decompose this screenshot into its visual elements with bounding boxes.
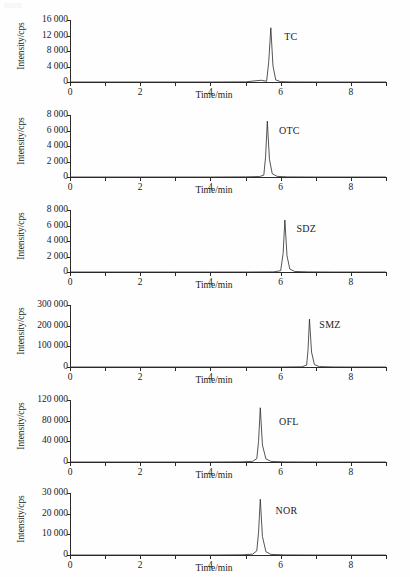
x-tick-mark <box>316 177 317 181</box>
peak-label-nor: NOR <box>275 505 297 516</box>
scan-artifact <box>4 3 22 8</box>
y-tick-label: 6 000 <box>47 126 68 136</box>
x-tick-mark <box>351 367 352 371</box>
x-tick-mark <box>210 82 211 86</box>
x-tick-mark <box>281 367 282 371</box>
y-axis-title-text: Intensity/cps <box>16 212 26 259</box>
peak-label-sdz: SDZ <box>296 223 316 234</box>
y-tick-label: 200 000 <box>37 321 68 331</box>
x-tick-mark <box>105 82 106 86</box>
x-tick-mark <box>175 367 176 371</box>
y-tick-labels: 04 0008 00012 00016 000 <box>26 10 68 82</box>
y-tick-label: 2 000 <box>47 252 68 262</box>
x-tick-mark <box>105 555 106 559</box>
x-axis-title: Time/min <box>0 563 410 573</box>
chromatogram-panel-ofl: Intensity/cps040 00080 000120 00002468OF… <box>0 390 410 485</box>
x-tick-mark <box>386 462 387 466</box>
x-tick-mark <box>246 272 247 276</box>
y-tick-label: 10 000 <box>42 530 68 540</box>
x-tick-mark <box>210 272 211 276</box>
x-tick-mark <box>140 555 141 559</box>
plot-area: 02468TC <box>70 20 386 82</box>
x-tick-mark <box>246 177 247 181</box>
x-tick-mark <box>246 367 247 371</box>
y-tick-labels: 02 0004 0006 0008 000 <box>26 200 68 272</box>
chromatogram-trace <box>70 400 386 462</box>
x-tick-mark <box>210 177 211 181</box>
trace-line <box>70 499 386 555</box>
y-tick-label: 40 000 <box>42 437 68 447</box>
x-axis-title: Time/min <box>0 185 410 195</box>
chromatogram-trace <box>70 305 386 367</box>
x-tick-mark <box>70 367 71 371</box>
x-tick-mark <box>70 272 71 276</box>
x-tick-mark <box>105 462 106 466</box>
y-axis-title-text: Intensity/cps <box>16 117 26 164</box>
trace-line <box>70 28 386 82</box>
peak-label-otc: OTC <box>279 125 300 136</box>
x-tick-mark <box>281 82 282 86</box>
x-tick-mark <box>70 462 71 466</box>
x-tick-mark <box>105 367 106 371</box>
chromatogram-trace <box>70 210 386 272</box>
plot-area: 02468SDZ <box>70 210 386 272</box>
x-tick-mark <box>281 272 282 276</box>
x-tick-mark <box>246 555 247 559</box>
x-tick-mark <box>105 272 106 276</box>
y-tick-label: 12 000 <box>42 31 68 41</box>
plot-area: 02468OFL <box>70 400 386 462</box>
trace-line <box>70 121 386 177</box>
y-tick-labels: 0100 000200 000300 000 <box>26 295 68 367</box>
x-tick-mark <box>246 462 247 466</box>
chromatogram-panel-tc: Intensity/cps04 0008 00012 00016 0000246… <box>0 10 410 105</box>
y-tick-labels: 02 0004 0006 0008 000 <box>26 105 68 177</box>
x-tick-mark <box>316 367 317 371</box>
chromatogram-panel-otc: Intensity/cps02 0004 0006 0008 00002468O… <box>0 105 410 200</box>
x-tick-mark <box>105 177 106 181</box>
x-axis-title: Time/min <box>0 375 410 385</box>
x-tick-mark <box>351 177 352 181</box>
chromatogram-trace <box>70 115 386 177</box>
trace-line <box>70 408 386 462</box>
x-axis-title-text: Time/min <box>177 185 232 195</box>
y-tick-label: 30 000 <box>42 488 68 498</box>
y-tick-label: 16 000 <box>42 15 68 25</box>
chromatogram-trace <box>70 20 386 82</box>
x-axis-title: Time/min <box>0 280 410 290</box>
x-tick-mark <box>316 82 317 86</box>
x-tick-mark <box>386 177 387 181</box>
y-tick-label: 4 000 <box>47 62 68 72</box>
x-tick-mark <box>210 367 211 371</box>
peak-label-tc: TC <box>284 31 297 42</box>
x-tick-mark <box>70 177 71 181</box>
x-tick-mark <box>246 82 247 86</box>
x-tick-mark <box>175 272 176 276</box>
y-tick-label: 20 000 <box>42 509 68 519</box>
chromatogram-trace <box>70 493 386 555</box>
x-tick-mark <box>281 462 282 466</box>
x-tick-mark <box>351 272 352 276</box>
x-tick-mark <box>386 82 387 86</box>
x-tick-mark <box>386 272 387 276</box>
plot-area: 02468SMZ <box>70 305 386 367</box>
y-tick-label: 6 000 <box>47 221 68 231</box>
x-tick-mark <box>281 555 282 559</box>
peak-label-ofl: OFL <box>279 416 299 427</box>
chromatogram-panel-smz: Intensity/cps0100 000200 000300 00002468… <box>0 295 410 390</box>
chromatogram-figure: Intensity/cps04 0008 00012 00016 0000246… <box>0 0 410 577</box>
peak-label-smz: SMZ <box>319 319 340 330</box>
y-tick-labels: 010 00020 00030 000 <box>26 483 68 555</box>
x-tick-mark <box>70 555 71 559</box>
x-tick-mark <box>140 272 141 276</box>
y-tick-labels: 040 00080 000120 000 <box>26 390 68 462</box>
y-tick-label: 2 000 <box>47 157 68 167</box>
x-tick-mark <box>140 462 141 466</box>
y-axis-title-text: Intensity/cps <box>16 22 26 69</box>
y-tick-label: 120 000 <box>37 395 68 405</box>
x-tick-mark <box>351 462 352 466</box>
x-tick-mark <box>175 462 176 466</box>
x-axis-title-text: Time/min <box>177 375 232 385</box>
plot-area: 02468OTC <box>70 115 386 177</box>
y-tick-label: 100 000 <box>37 342 68 352</box>
x-tick-mark <box>175 82 176 86</box>
